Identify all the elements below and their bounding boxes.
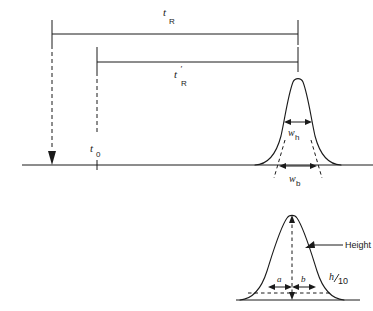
inset-height-leader-arrowhead xyxy=(305,241,315,248)
tr-prime-label: t ′ R xyxy=(174,64,187,88)
inset-tenth-height-label: h 10 xyxy=(329,271,348,286)
inset-b-arrowhead-left xyxy=(292,284,299,290)
inset-height-label: Height xyxy=(345,240,372,250)
wb-label: w b xyxy=(289,173,301,188)
wh-arrowhead-left xyxy=(284,119,291,125)
tr-prime-label-prime: ′ xyxy=(180,64,183,74)
main-plot-group: t R t ′ R xyxy=(22,6,373,188)
inset-tenth-height-denominator: 10 xyxy=(338,276,348,286)
inset-b-label: b xyxy=(301,274,306,284)
wb-arrowhead-left xyxy=(279,163,286,169)
t0-label-symbol: t xyxy=(90,142,94,154)
tr-label-subscript: R xyxy=(169,17,175,26)
wh-arrowhead-right xyxy=(305,119,312,125)
tr-label-symbol: t xyxy=(163,6,167,18)
peak-tangent-lines xyxy=(274,140,322,178)
tr-label: t R xyxy=(163,6,175,26)
wh-label-symbol: w xyxy=(288,127,295,138)
tr-bracket xyxy=(52,20,298,45)
tangent-left xyxy=(274,140,285,178)
injection-marker xyxy=(48,45,56,165)
tr-prime-label-symbol: t xyxy=(174,68,178,80)
inset-a-measure xyxy=(268,284,292,290)
wh-label: w h xyxy=(288,127,299,142)
inset-a-arrowhead-left xyxy=(268,284,275,290)
inset-plot-group: Height a b h 10 xyxy=(236,215,372,300)
tangent-right xyxy=(311,140,322,178)
wh-label-subscript: h xyxy=(295,133,299,142)
inset-tenth-height-numerator: h xyxy=(329,271,334,282)
wb-label-subscript: b xyxy=(296,179,301,188)
inset-a-label: a xyxy=(277,274,282,284)
chromatogram-svg: t R t ′ R xyxy=(0,0,373,311)
tr-prime-label-subscript: R xyxy=(181,79,187,88)
wb-measure xyxy=(279,163,317,169)
chromatogram-figure: t R t ′ R xyxy=(0,0,373,311)
t0-label-subscript: 0 xyxy=(96,150,101,159)
wb-label-symbol: w xyxy=(289,173,296,184)
wh-measure xyxy=(284,119,312,125)
t0-label: t 0 xyxy=(90,142,101,159)
inset-a-arrowhead-right xyxy=(285,284,292,290)
inset-height-leader xyxy=(305,241,343,248)
injection-arrowhead xyxy=(48,151,56,165)
tr-prime-bracket xyxy=(97,47,298,72)
inset-b-measure xyxy=(292,284,316,290)
wb-arrowhead-right xyxy=(310,163,317,169)
inset-b-arrowhead-right xyxy=(309,284,316,290)
